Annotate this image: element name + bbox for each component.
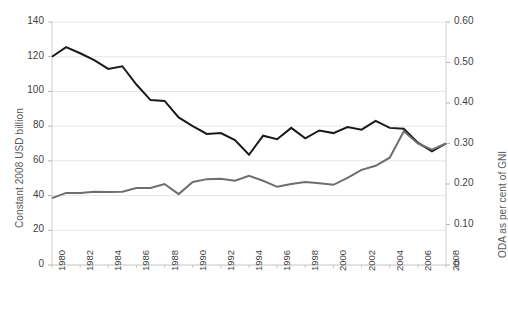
x-axis-tick-label: 1988 bbox=[169, 250, 180, 271]
x-axis-tick-label: 2006 bbox=[422, 250, 433, 271]
right-axis-tick-label: 0.50 bbox=[454, 56, 473, 67]
x-axis-tick-label: 1980 bbox=[56, 250, 67, 271]
right-axis-tick-label: 0.40 bbox=[454, 96, 473, 107]
left-axis-tick-label: 60 bbox=[8, 154, 44, 165]
x-axis-tick-label: 2004 bbox=[394, 250, 405, 271]
series-line-1 bbox=[52, 47, 446, 155]
x-axis-tick-label: 2000 bbox=[337, 250, 348, 271]
right-axis-tick-label: 0.30 bbox=[454, 137, 473, 148]
right-axis-tick-label: 0.20 bbox=[454, 177, 473, 188]
x-axis-tick-label: 1986 bbox=[140, 250, 151, 271]
x-axis-tick-label: 2008 bbox=[450, 250, 461, 271]
x-axis-tick-label: 1998 bbox=[309, 250, 320, 271]
left-axis-tick-label: 100 bbox=[8, 84, 44, 95]
left-axis-tick-label: 0 bbox=[8, 258, 44, 269]
x-axis-tick-label: 1990 bbox=[197, 250, 208, 271]
left-axis-tick-label: 80 bbox=[8, 119, 44, 130]
right-axis-tick-label: 0.10 bbox=[454, 218, 473, 229]
left-axis-tick-label: 140 bbox=[8, 15, 44, 26]
series-line-2 bbox=[52, 131, 446, 198]
x-axis-tick-label: 1992 bbox=[225, 250, 236, 271]
x-axis-tick-label: 1996 bbox=[281, 250, 292, 271]
x-axis-tick-label: 1984 bbox=[112, 250, 123, 271]
right-axis-tick-label: 0.60 bbox=[454, 15, 473, 26]
x-axis-tick-label: 1994 bbox=[253, 250, 264, 271]
x-axis-tick-label: 2002 bbox=[366, 250, 377, 271]
x-axis-tick-label: 1982 bbox=[84, 250, 95, 271]
left-axis-tick-label: 20 bbox=[8, 223, 44, 234]
left-axis-tick-label: 40 bbox=[8, 189, 44, 200]
left-axis-tick-label: 120 bbox=[8, 50, 44, 61]
right-axis-title: ODA as per cent of GNI bbox=[497, 28, 508, 258]
